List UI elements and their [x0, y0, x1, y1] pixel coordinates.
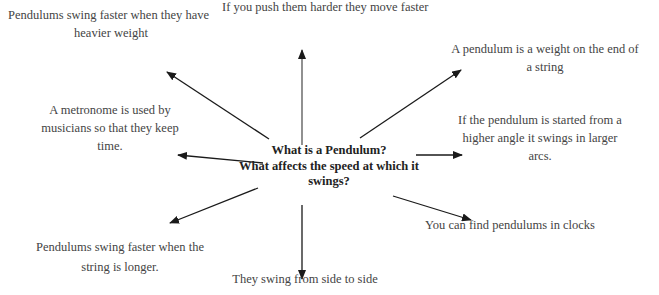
node-line: higher angle it swings in larger: [440, 129, 640, 147]
node-line: musicians so that they keep: [30, 119, 190, 137]
central-question-line-1: What is a Pendulum?: [229, 143, 429, 159]
node-longer-string: Pendulums swing faster when the string i…: [30, 237, 210, 277]
node-side-to-side: They swing from side to side: [205, 270, 405, 288]
node-higher-angle: If the pendulum is started from a higher…: [440, 111, 640, 165]
node-definition: A pendulum is a weight on the end of a s…: [440, 40, 650, 76]
node-text: You can find pendulums in clocks: [425, 218, 595, 232]
node-line: If the pendulum is started from a: [440, 111, 640, 129]
spider-diagram: What is a Pendulum? What affects the spe…: [0, 0, 659, 295]
node-text: They swing from side to side: [232, 272, 377, 286]
arrow-lower-left: [170, 188, 258, 223]
node-line: Pendulums swing faster when the: [30, 237, 210, 257]
node-text: If you push them harder they move faster: [222, 0, 429, 14]
node-line: string is longer.: [30, 257, 210, 277]
node-line: a string: [440, 58, 650, 76]
node-metronome: A metronome is used by musicians so that…: [30, 101, 190, 155]
node-line: A pendulum is a weight on the end of: [440, 40, 650, 58]
node-clocks: You can find pendulums in clocks: [410, 216, 610, 234]
node-line: time.: [30, 137, 190, 155]
node-heavier-weight: Pendulums swing faster when they have he…: [0, 6, 222, 42]
central-question-line-3: swings?: [229, 174, 429, 190]
node-line: heavier weight: [0, 24, 222, 42]
node-line: Pendulums swing faster when they have: [8, 6, 222, 24]
central-question: What is a Pendulum? What affects the spe…: [229, 143, 429, 190]
node-push-harder: If you push them harder they move faster: [222, 0, 392, 16]
node-line: A metronome is used by: [30, 101, 190, 119]
node-line: arcs.: [440, 147, 640, 165]
central-question-line-2: What affects the speed at which it: [229, 159, 429, 175]
